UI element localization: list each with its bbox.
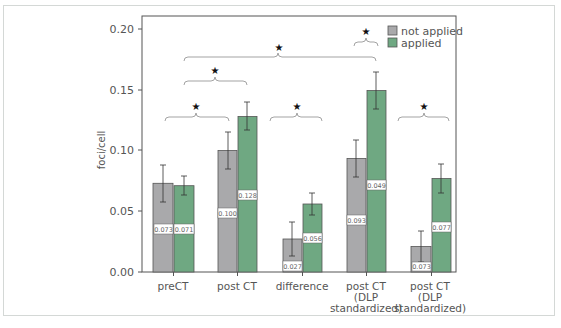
y-tick-label: 0.00 xyxy=(110,266,135,279)
bar-group-post-ct-dlp-2: 0.073 0.077 xyxy=(411,164,451,272)
y-tick-label: 0.20 xyxy=(110,23,135,36)
value-label: 0.056 xyxy=(303,235,322,243)
legend-label: applied xyxy=(401,37,442,50)
bracket xyxy=(184,53,376,61)
significance-brackets xyxy=(165,38,449,121)
star-icon: ★ xyxy=(275,42,284,53)
bracket xyxy=(270,113,322,121)
category-label: standardized) xyxy=(394,302,466,314)
legend-swatch-not-applied xyxy=(388,26,397,35)
legend-swatch-applied xyxy=(388,38,397,47)
star-icon: ★ xyxy=(293,101,302,112)
value-label: 0.071 xyxy=(175,226,194,234)
legend: not applied applied xyxy=(388,25,463,50)
star-icon: ★ xyxy=(192,101,201,112)
category-label: preCT xyxy=(158,280,190,292)
category-label: post CT xyxy=(217,280,257,292)
y-axis: 0.00 0.05 0.10 0.15 0.20 foci/cell xyxy=(96,23,142,279)
star-icon: ★ xyxy=(211,65,220,76)
value-label: 0.093 xyxy=(347,217,366,225)
bar-group-post-ct: 0.100 0.128 xyxy=(218,102,257,272)
bar-group-post-ct-dlp-1: 0.093 0.049 xyxy=(347,72,386,272)
bar-group-difference: 0.027 0.056 xyxy=(283,193,322,272)
y-axis-title: foci/cell xyxy=(96,131,107,170)
bracket xyxy=(184,77,247,85)
value-label: 0.049 xyxy=(367,182,386,190)
x-axis-labels: preCT post CT difference post CT (DLP st… xyxy=(158,280,467,314)
x-axis-ticks xyxy=(174,272,432,276)
value-label: 0.027 xyxy=(283,263,302,271)
bar-group-preCT: 0.073 0.071 xyxy=(153,165,194,272)
bracket xyxy=(165,113,229,121)
value-label: 0.077 xyxy=(432,224,451,232)
bracket xyxy=(398,113,449,121)
value-label: 0.128 xyxy=(238,192,257,200)
bracket xyxy=(354,38,378,46)
y-tick-label: 0.10 xyxy=(110,144,135,157)
y-tick-label: 0.05 xyxy=(110,205,135,218)
star-icon: ★ xyxy=(362,26,371,37)
value-label: 0.100 xyxy=(218,210,237,218)
category-label: standardized) xyxy=(330,302,402,314)
bar-chart: 0.00 0.05 0.10 0.15 0.20 foci/cell 0.073… xyxy=(0,0,561,328)
category-label: difference xyxy=(276,280,329,292)
value-label: 0.073 xyxy=(154,226,173,234)
star-icon: ★ xyxy=(420,101,429,112)
y-tick-label: 0.15 xyxy=(110,84,135,97)
value-label: 0.073 xyxy=(412,263,431,271)
